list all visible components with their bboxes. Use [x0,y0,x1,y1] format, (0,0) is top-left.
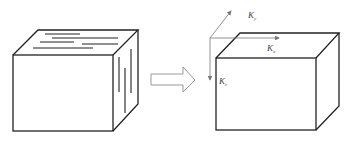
ky-label: Ky [248,11,256,21]
ky-axis [210,11,231,38]
left-layered-block [13,30,138,131]
transform-arrow-icon [151,67,195,92]
kx-label: Kx [267,44,275,54]
kz-label: Kz [219,77,227,87]
diagram-svg [0,0,348,142]
top-layer-lines [33,34,118,48]
right-equivalent-block [216,33,339,130]
diagram-canvas: Ky Kx Kz [0,0,348,142]
side-layer-lines [119,49,131,113]
